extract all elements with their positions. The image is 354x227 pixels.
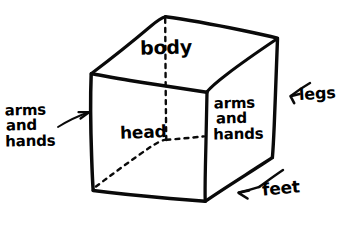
label-right-face-line3: hands	[213, 126, 263, 142]
label-external-arms-and-hands: arms and hands	[5, 103, 56, 150]
label-front-face-head: head	[120, 123, 167, 142]
edge-top-right-front	[207, 39, 278, 92]
sketch-canvas: body head arms and hands arms and hands …	[0, 0, 354, 227]
label-external-feet: feet	[261, 178, 300, 199]
edge-front-bottom	[93, 190, 205, 201]
edge-top-front-left	[92, 74, 207, 92]
label-top-face-body: body	[140, 37, 192, 58]
label-right-face-arms-and-hands: arms and hands	[214, 96, 264, 143]
label-external-legs: legs	[299, 85, 336, 103]
label-external-line3: hands	[5, 133, 55, 149]
hidden-edge-to-right	[167, 136, 205, 139]
edge-front-left-vertical	[91, 74, 94, 190]
edge-right-far-vertical	[272, 39, 277, 158]
edge-front-right-vertical	[205, 92, 207, 201]
hidden-edge-from-bottom-left	[96, 140, 166, 187]
arrow-arms-and-hands-left	[58, 112, 90, 127]
